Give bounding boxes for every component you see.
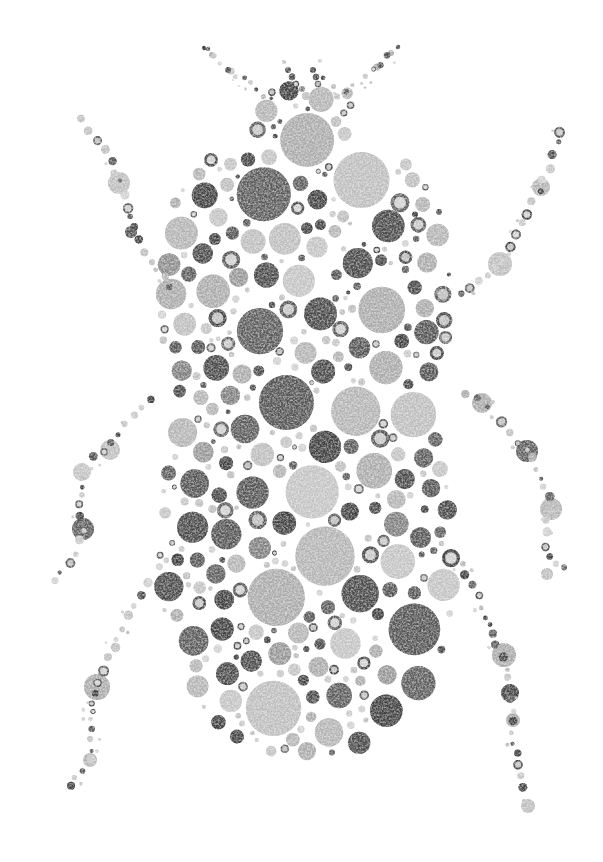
dot (548, 150, 557, 159)
dot (147, 396, 154, 403)
dot (269, 302, 275, 308)
dot (420, 471, 426, 477)
dot (158, 253, 181, 276)
dot (211, 618, 234, 641)
dot (527, 197, 535, 205)
dot (75, 535, 84, 544)
dot (548, 508, 554, 514)
dot (226, 409, 231, 414)
dot (401, 666, 435, 700)
dot (343, 248, 373, 278)
dot (181, 267, 196, 282)
dot (230, 730, 244, 744)
dot (561, 565, 567, 571)
dot (439, 541, 444, 546)
dot (157, 279, 161, 283)
dot (343, 473, 350, 480)
dot (363, 74, 368, 79)
dot (71, 516, 74, 519)
dot (131, 603, 137, 609)
dot (421, 506, 429, 514)
dot (254, 88, 258, 92)
dot (438, 314, 451, 327)
dot (402, 266, 409, 273)
dot (278, 119, 283, 124)
dot (339, 309, 345, 315)
dot (301, 329, 306, 334)
dot (271, 124, 276, 129)
dot (373, 341, 379, 347)
dot (412, 218, 425, 231)
dot (341, 503, 359, 521)
dot (194, 581, 206, 593)
dot (492, 264, 499, 271)
dot (232, 79, 234, 81)
dot (206, 564, 225, 583)
dot (76, 512, 84, 520)
dot (226, 226, 239, 239)
dot (483, 616, 488, 621)
dot (179, 546, 185, 552)
dot (344, 363, 352, 371)
dot (225, 67, 231, 73)
dot (511, 445, 515, 449)
dot (227, 330, 232, 335)
dot (165, 217, 198, 250)
dot (221, 446, 228, 453)
dot (331, 197, 335, 201)
dot (224, 252, 239, 267)
dot (404, 350, 412, 358)
dot (344, 89, 349, 94)
dot (180, 469, 209, 498)
dot (206, 47, 210, 51)
dot (91, 709, 95, 713)
dot (99, 667, 108, 676)
dot (108, 157, 116, 165)
dot (241, 152, 255, 166)
dot (234, 584, 246, 596)
dot (209, 338, 213, 342)
dot (372, 635, 378, 641)
dot (438, 646, 446, 654)
dot (79, 782, 83, 786)
dot (104, 162, 107, 165)
dot (173, 385, 186, 398)
dot (87, 736, 93, 742)
dot (490, 415, 494, 419)
dot (161, 326, 168, 333)
dot (273, 465, 286, 478)
dot (414, 320, 438, 344)
dot (279, 295, 285, 301)
dot (313, 74, 319, 80)
dot (160, 337, 167, 344)
dot (504, 674, 511, 681)
dot (391, 447, 405, 461)
dot (553, 561, 559, 567)
dot (523, 210, 532, 219)
dot (412, 212, 418, 218)
dot (172, 485, 176, 489)
dot (551, 129, 554, 132)
dot (350, 83, 354, 87)
dot (158, 311, 166, 319)
dot (248, 80, 253, 85)
dot (474, 394, 481, 401)
beetle-canvas (0, 0, 603, 862)
dot (292, 445, 296, 449)
dot (375, 493, 380, 498)
dot (236, 444, 241, 449)
dot (194, 598, 205, 609)
dot (515, 441, 520, 446)
dot (272, 558, 279, 565)
dot (162, 608, 166, 612)
dot (273, 134, 278, 139)
dot (181, 497, 189, 505)
dot (306, 690, 319, 703)
dot (73, 552, 78, 557)
dot (330, 666, 338, 674)
dot (355, 485, 363, 493)
dot (116, 432, 121, 437)
dot (121, 611, 124, 614)
dot (310, 624, 317, 631)
dot (249, 537, 271, 559)
